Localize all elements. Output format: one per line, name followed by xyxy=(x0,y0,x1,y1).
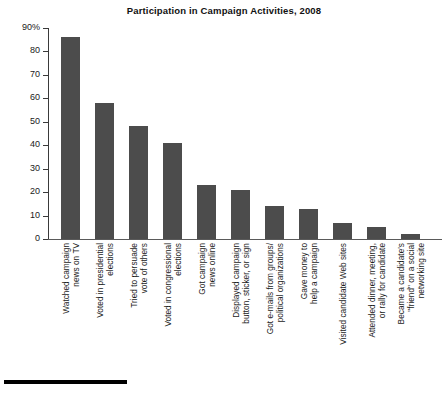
x-axis-category-label-text: Gave money to help a campaign xyxy=(299,243,319,304)
x-axis-category-label: Gave money to help a campaign xyxy=(292,241,326,389)
x-axis-category-label-text: Tried to persuade vote of others xyxy=(129,243,149,308)
bar-slot xyxy=(360,28,394,239)
y-axis-tick: 80 xyxy=(0,51,48,52)
bar-slot xyxy=(156,28,190,239)
y-axis-tick: 10 xyxy=(0,216,48,217)
x-axis-category-label-text: Got campaign news online xyxy=(197,243,217,295)
x-axis-category-label-text: Visited candidate Web sites xyxy=(338,243,348,345)
x-axis-category-label: Voted in presidential elections xyxy=(88,241,122,389)
y-axis-tick-label: 60 xyxy=(30,92,40,102)
y-axis-tick-label: 30 xyxy=(30,163,40,173)
x-axis-category-label-text: Displayed campaign button, sticker, or s… xyxy=(231,243,251,324)
bar[interactable] xyxy=(265,206,284,239)
x-axis-category-label: Voted in congressional elections xyxy=(156,241,190,389)
x-axis-category-label-text: Voted in congressional elections xyxy=(163,243,183,327)
y-axis-tick-mark xyxy=(43,239,48,240)
bar[interactable] xyxy=(401,234,420,239)
x-axis-category-label: Got campaign news online xyxy=(190,241,224,389)
y-axis-tick: 50 xyxy=(0,122,48,123)
bar-slot xyxy=(326,28,360,239)
bar-slot xyxy=(122,28,156,239)
bar-slot xyxy=(394,28,428,239)
y-axis-tick-label: 50 xyxy=(30,116,40,126)
x-axis-category-label: Watched campaign news on TV xyxy=(54,241,88,389)
x-axis-category-label: Visited candidate Web sites xyxy=(326,241,360,389)
y-axis-tick: 20 xyxy=(0,192,48,193)
y-axis-tick: 60 xyxy=(0,98,48,99)
x-axis-category-label-text: Got e-mails from groups/ political organ… xyxy=(265,243,285,334)
bar[interactable] xyxy=(61,37,80,239)
y-axis-tick-label: 10 xyxy=(30,210,40,220)
x-axis-line xyxy=(48,239,442,240)
x-axis-category-label-text: Voted in presidential elections xyxy=(95,243,115,318)
y-axis-tick-label: 90% xyxy=(22,22,40,32)
x-axis-labels: Watched campaign news on TVVoted in pres… xyxy=(48,241,442,391)
bar[interactable] xyxy=(197,185,216,239)
bar-slot xyxy=(292,28,326,239)
x-axis-category-label: Tried to persuade vote of others xyxy=(122,241,156,389)
y-axis-tick: 90% xyxy=(0,28,48,29)
y-axis-tick: 30 xyxy=(0,169,48,170)
y-axis-tick: 0 xyxy=(0,239,48,240)
bar[interactable] xyxy=(367,227,386,239)
x-axis-category-label-text: Became a candidate's "friend" on a socia… xyxy=(396,243,426,324)
x-axis-category-label: Became a candidate's "friend" on a socia… xyxy=(394,241,428,389)
bar[interactable] xyxy=(299,209,318,239)
y-axis-tick: 40 xyxy=(0,145,48,146)
x-axis-category-label: Attended dinner, meeting, or rally for c… xyxy=(360,241,394,389)
bar-chart-figure: Participation in Campaign Activities, 20… xyxy=(0,0,448,398)
bar-slot xyxy=(54,28,88,239)
y-axis-tick: 70 xyxy=(0,75,48,76)
bar[interactable] xyxy=(95,103,114,239)
bar[interactable] xyxy=(231,190,250,239)
bar[interactable] xyxy=(129,126,148,239)
bar-slot xyxy=(224,28,258,239)
x-axis-category-label: Got e-mails from groups/ political organ… xyxy=(258,241,292,389)
bar-slot xyxy=(190,28,224,239)
y-axis-tick-label: 40 xyxy=(30,139,40,149)
x-axis-category-label: Displayed campaign button, sticker, or s… xyxy=(224,241,258,389)
chart-title: Participation in Campaign Activities, 20… xyxy=(0,5,448,16)
x-axis-category-label-text: Attended dinner, meeting, or rally for c… xyxy=(367,243,387,338)
bottom-rule xyxy=(4,380,127,384)
bar[interactable] xyxy=(163,143,182,239)
bar-slot xyxy=(258,28,292,239)
x-axis-category-label-text: Watched campaign news on TV xyxy=(61,243,81,314)
bar-slot xyxy=(88,28,122,239)
bar[interactable] xyxy=(333,223,352,239)
y-axis-tick-label: 0 xyxy=(35,233,40,243)
plot-area xyxy=(48,28,428,239)
y-axis-tick-label: 70 xyxy=(30,69,40,79)
y-axis-tick-label: 80 xyxy=(30,45,40,55)
y-axis-tick-label: 20 xyxy=(30,186,40,196)
